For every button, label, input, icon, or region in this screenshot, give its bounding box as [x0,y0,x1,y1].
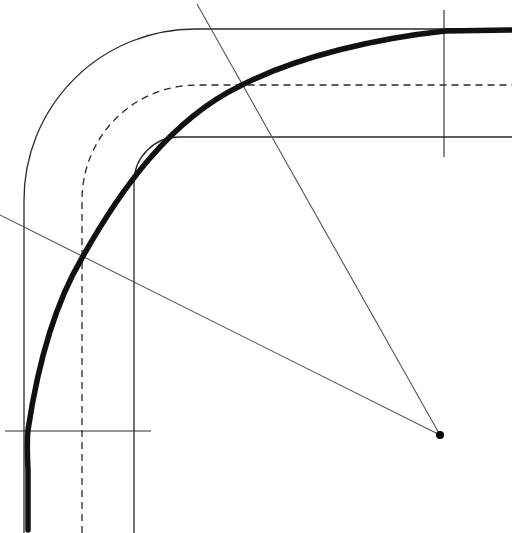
center-point-dot [436,431,444,439]
track-corner-diagram [0,0,512,533]
diagram-canvas [0,0,512,533]
